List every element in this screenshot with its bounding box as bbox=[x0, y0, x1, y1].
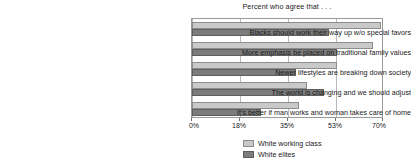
category-label-0: Blacks should work their way up w/o spec… bbox=[225, 28, 411, 37]
legend-item-white-elites[interactable]: White elites bbox=[243, 149, 322, 159]
x-axis: 0% 18% 35% 53% 70% bbox=[191, 118, 383, 134]
legend: White working class White elites bbox=[243, 138, 322, 160]
category-label-1: More emphasis be placed on traditional f… bbox=[225, 48, 411, 57]
tick-label-35: 35% bbox=[280, 122, 294, 129]
tick-mark-18 bbox=[239, 118, 240, 121]
chart-title: Percent who agree that . . . bbox=[191, 2, 383, 11]
tick-label-0: 0% bbox=[189, 122, 199, 129]
tick-label-18: 18% bbox=[232, 122, 246, 129]
tick-mark-53 bbox=[335, 118, 336, 121]
legend-swatch-icon-white-working-class bbox=[243, 140, 254, 147]
legend-label-white-working-class: White working class bbox=[258, 139, 322, 148]
category-label-3: The world is changing and we should adju… bbox=[225, 88, 411, 97]
legend-swatch-icon-white-elites bbox=[243, 151, 254, 158]
legend-item-white-working-class[interactable]: White working class bbox=[243, 138, 322, 148]
tick-label-70: 70% bbox=[372, 122, 386, 129]
legend-label-white-elites: White elites bbox=[258, 150, 295, 159]
tick-label-53: 53% bbox=[328, 122, 342, 129]
tick-mark-70 bbox=[382, 118, 383, 121]
bar-chart-figure: Percent who agree that . . . Blacks shou… bbox=[0, 0, 411, 164]
category-label-4: It's better if man works and woman takes… bbox=[225, 108, 411, 117]
category-label-2: Newer lifestyles are breaking down socie… bbox=[225, 68, 411, 77]
tick-mark-0 bbox=[191, 118, 192, 121]
tick-mark-35 bbox=[287, 118, 288, 121]
